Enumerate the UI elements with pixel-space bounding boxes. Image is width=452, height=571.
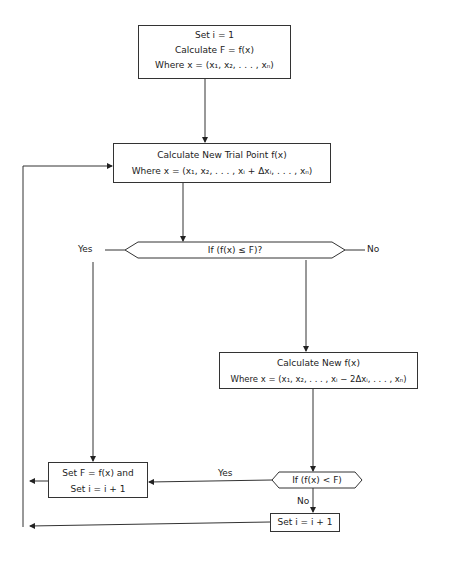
increment-box-line1: Set i = i + 1: [271, 514, 339, 531]
decision-1-yes-label: Yes: [78, 244, 93, 254]
start-box-line1: Set i = 1: [139, 30, 290, 41]
trial-point-box: Calculate New Trial Point f(x) Where x =…: [113, 143, 331, 183]
start-box-line3: Where x = (x₁, x₂, . . . , xₙ): [139, 60, 290, 71]
trial-box-line1: Calculate New Trial Point f(x): [114, 150, 330, 161]
increment-i-box: Set i = i + 1: [270, 513, 340, 532]
decision-1-text: If (f(x) ≤ F)?: [138, 242, 332, 258]
decision-2-yes-label: Yes: [218, 468, 233, 478]
new-f-box-line2: Where x = (x₁, x₂, . . . , xᵢ − 2Δxᵢ, . …: [220, 374, 417, 384]
start-box: Set i = 1 Calculate F = f(x) Where x = (…: [138, 25, 291, 79]
decision-1-no-label: No: [367, 244, 379, 254]
new-f-box-line1: Calculate New f(x): [220, 358, 417, 369]
decision-2-no-label: No: [297, 496, 309, 506]
start-box-line2: Calculate F = f(x): [139, 45, 290, 56]
decision-2-text: If (f(x) < F): [279, 472, 355, 488]
update-box-line1: Set F = f(x) and: [49, 468, 147, 479]
update-box-line2: Set i = i + 1: [49, 484, 147, 495]
trial-box-line2: Where x = (x₁, x₂, . . . , xᵢ + Δxᵢ, . .…: [114, 166, 330, 177]
update-f-box: Set F = f(x) and Set i = i + 1: [48, 462, 148, 498]
calculate-new-f-box: Calculate New f(x) Where x = (x₁, x₂, . …: [219, 352, 418, 389]
